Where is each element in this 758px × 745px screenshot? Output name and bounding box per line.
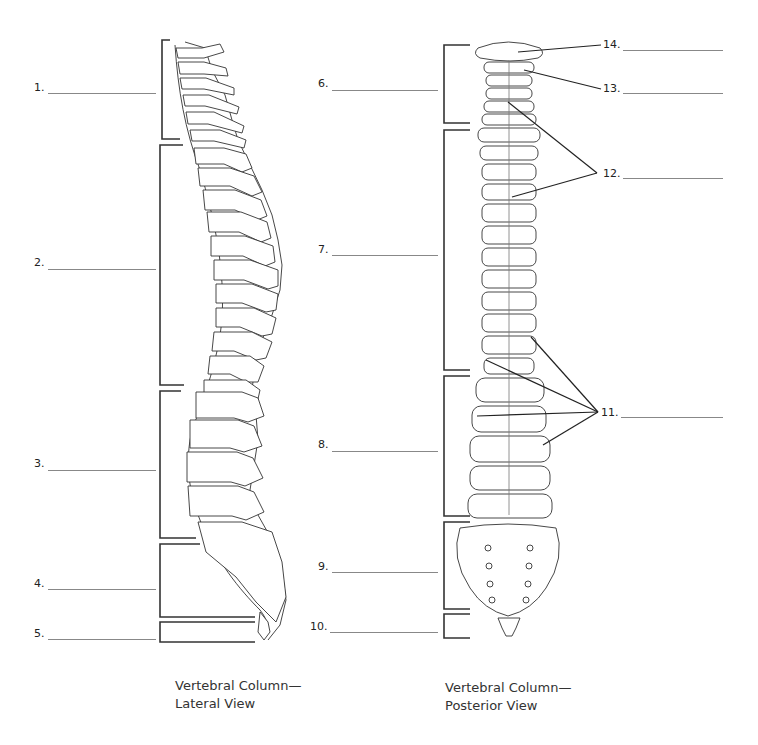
lateral-spine-drawing bbox=[175, 42, 286, 640]
answer-blank-1[interactable] bbox=[48, 93, 156, 94]
posterior-caption-line2: Posterior View bbox=[445, 697, 571, 715]
label-number-3: 3. bbox=[34, 457, 45, 470]
lateral-caption-line2: Lateral View bbox=[175, 695, 301, 713]
lateral-caption-line1: Vertebral Column— bbox=[175, 677, 301, 695]
answer-blank-12[interactable] bbox=[623, 178, 723, 179]
label-number-5: 5. bbox=[34, 627, 45, 640]
answer-blank-6[interactable] bbox=[332, 90, 438, 91]
answer-blank-13[interactable] bbox=[623, 93, 723, 94]
label-number-8: 8. bbox=[318, 438, 329, 451]
answer-blank-14[interactable] bbox=[623, 50, 723, 51]
label-number-1: 1. bbox=[34, 81, 45, 94]
answer-blank-8[interactable] bbox=[332, 451, 438, 452]
label-number-7: 7. bbox=[318, 243, 329, 256]
label-number-11: 11. bbox=[601, 406, 619, 419]
answer-blank-9[interactable] bbox=[332, 572, 438, 573]
label-number-13: 13. bbox=[603, 82, 621, 95]
posterior-caption-line1: Vertebral Column— bbox=[445, 679, 571, 697]
answer-blank-5[interactable] bbox=[48, 639, 156, 640]
label-number-12: 12. bbox=[603, 167, 621, 180]
answer-blank-4[interactable] bbox=[48, 589, 156, 590]
posterior-view-caption: Vertebral Column— Posterior View bbox=[445, 679, 571, 715]
answer-blank-10[interactable] bbox=[330, 632, 438, 633]
label-number-14: 14. bbox=[603, 38, 621, 51]
answer-blank-7[interactable] bbox=[332, 255, 438, 256]
spine-illustrations bbox=[0, 0, 758, 745]
label-number-6: 6. bbox=[318, 77, 329, 90]
label-number-9: 9. bbox=[318, 560, 329, 573]
lateral-view-caption: Vertebral Column— Lateral View bbox=[175, 677, 301, 713]
answer-blank-2[interactable] bbox=[48, 269, 156, 270]
answer-blank-11[interactable] bbox=[621, 417, 723, 418]
answer-blank-3[interactable] bbox=[48, 470, 156, 471]
label-number-2: 2. bbox=[34, 256, 45, 269]
label-number-4: 4. bbox=[34, 577, 45, 590]
label-number-10: 10. bbox=[310, 620, 328, 633]
